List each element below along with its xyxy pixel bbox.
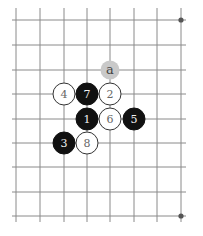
grid-lines (12, 8, 186, 222)
black-stone-3: 3 (53, 132, 75, 154)
white-stone-2: 2 (99, 83, 121, 105)
white-stone-4: 4 (53, 83, 75, 105)
markers: a (101, 61, 120, 80)
move-number: 3 (61, 137, 68, 150)
white-stone-6: 6 (99, 108, 121, 130)
marker-a: a (101, 61, 120, 80)
star-point-icon (178, 17, 183, 22)
move-number: 6 (107, 113, 114, 126)
move-number: 2 (107, 88, 114, 101)
star-point-icon (178, 213, 183, 218)
black-stone-5: 5 (123, 108, 145, 130)
move-number: 4 (61, 88, 68, 101)
move-number: 1 (84, 113, 91, 126)
black-stone-7: 7 (76, 83, 98, 105)
marker-label: a (106, 62, 114, 77)
move-number: 8 (84, 137, 91, 150)
move-number: 7 (84, 88, 91, 101)
black-stone-1: 1 (76, 108, 98, 130)
move-number: 5 (131, 113, 138, 126)
go-board: a 12345678 (0, 0, 203, 236)
white-stone-8: 8 (76, 132, 98, 154)
